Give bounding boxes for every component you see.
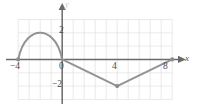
endpoint-dot-right [170, 57, 174, 61]
x-tick-label-4: 4 [112, 62, 117, 72]
y-tick-label-neg2: −2 [52, 80, 62, 90]
endpoint-dot-vertex [115, 84, 119, 88]
graph-figure: y x −4 0 4 8 2 −2 [0, 0, 199, 111]
x-tick-label-neg4: −4 [10, 62, 20, 72]
x-tick-label-0: 0 [59, 62, 64, 72]
y-axis-label: y [65, 1, 69, 9]
x-tick-label-8: 8 [163, 62, 168, 72]
x-axis [6, 56, 186, 63]
x-axis-label: x [185, 54, 189, 63]
coordinate-plot [0, 0, 199, 111]
y-tick-label-2: 2 [59, 26, 64, 36]
